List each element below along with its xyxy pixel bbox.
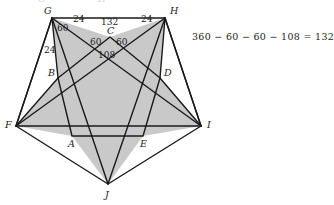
angle-108-below-c: 108 <box>98 50 115 60</box>
ghost-glyph-right-icon: H <box>98 0 106 4</box>
angle-sum-equation: 360 − 60 − 60 − 108 = 132 <box>192 31 334 42</box>
angle-132-apex: 132 <box>101 17 118 27</box>
angle-24-top-left: 24 <box>73 14 85 24</box>
vertex-label-E: E <box>139 138 147 149</box>
star-point-j-fill <box>72 136 143 184</box>
angle-60-at-g: 60 <box>57 23 69 33</box>
vertex-label-G: G <box>44 5 52 16</box>
angle-60-right-of-c: 60 <box>116 37 128 47</box>
angle-24-left-side: 24 <box>44 45 56 55</box>
ghost-glyph-left-icon: G <box>38 0 45 4</box>
angle-60-left-of-c: 60 <box>90 37 102 47</box>
vertex-label-B: B <box>47 67 55 78</box>
angle-24-top-right: 24 <box>141 14 153 24</box>
vertex-label-J: J <box>103 189 110 200</box>
vertex-label-H: H <box>169 5 179 16</box>
vertex-label-I: I <box>206 119 211 130</box>
vertex-label-D: D <box>163 67 172 78</box>
vertex-label-F: F <box>4 119 12 130</box>
vertex-label-A: A <box>67 138 75 149</box>
